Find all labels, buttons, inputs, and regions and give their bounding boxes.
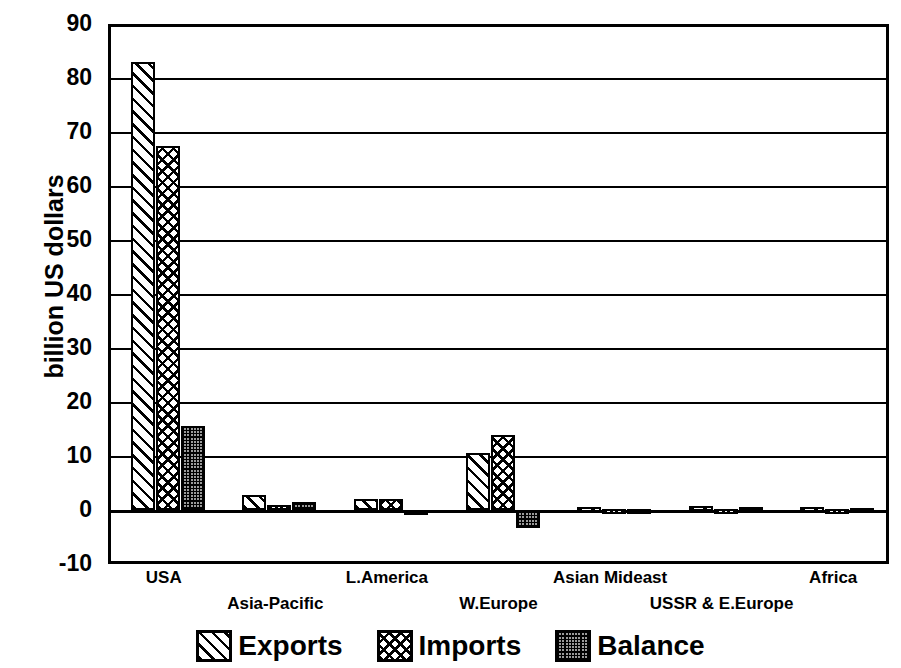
legend-item-imports: Imports bbox=[377, 630, 522, 662]
y-tick-label: 20 bbox=[8, 388, 100, 415]
dot-screen-swatch bbox=[555, 630, 591, 662]
gridline bbox=[111, 78, 886, 80]
y-tick-label: 60 bbox=[8, 172, 100, 199]
y-tick-label: 70 bbox=[8, 118, 100, 145]
y-axis-tick-labels: 9080706050403020100-10 bbox=[0, 24, 100, 564]
x-label-usa: USA bbox=[146, 568, 182, 588]
gridline bbox=[111, 132, 886, 134]
diagonal-hatch-swatch bbox=[196, 630, 232, 662]
gridline bbox=[111, 294, 886, 296]
gridline bbox=[111, 240, 886, 242]
x-axis-category-labels: USAAsia-PacificL.AmericaW.EuropeAsian Mi… bbox=[0, 568, 901, 624]
legend-label: Exports bbox=[238, 632, 342, 660]
y-tick-label: 80 bbox=[8, 64, 100, 91]
y-tick-label: 50 bbox=[8, 226, 100, 253]
x-label-asian-mideast: Asian Mideast bbox=[553, 568, 667, 588]
chart-legend: ExportsImportsBalance bbox=[0, 624, 901, 668]
y-tick-label: 90 bbox=[8, 10, 100, 37]
y-tick-label: 40 bbox=[8, 280, 100, 307]
plot-area bbox=[108, 24, 889, 564]
gridline bbox=[111, 456, 886, 458]
x-label-w-europe: W.Europe bbox=[459, 594, 537, 614]
y-tick-label: 0 bbox=[8, 496, 100, 523]
x-label-l-america: L.America bbox=[346, 568, 428, 588]
legend-item-exports: Exports bbox=[196, 630, 342, 662]
x-label-asia-pacific: Asia-Pacific bbox=[227, 594, 323, 614]
bar-chart: billion US dollars 9080706050403020100-1… bbox=[0, 0, 901, 668]
y-tick-label: 10 bbox=[8, 442, 100, 469]
gridline bbox=[111, 186, 886, 188]
zero-baseline bbox=[111, 510, 886, 513]
legend-label: Imports bbox=[419, 632, 522, 660]
gridline bbox=[111, 402, 886, 404]
gridline bbox=[111, 348, 886, 350]
y-tick-label: 30 bbox=[8, 334, 100, 361]
legend-item-balance: Balance bbox=[555, 630, 704, 662]
x-label-africa: Africa bbox=[809, 568, 857, 588]
x-label-ussr-e-europe: USSR & E.Europe bbox=[650, 594, 794, 614]
legend-label: Balance bbox=[597, 632, 704, 660]
crosshatch-swatch bbox=[377, 630, 413, 662]
